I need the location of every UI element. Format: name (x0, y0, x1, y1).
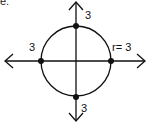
label-top: 3 (85, 9, 91, 21)
label-bottom: 3 (81, 102, 87, 114)
diagram-canvas: 3 3 3 r= 3 (0, 0, 146, 123)
label-radius: r= 3 (112, 41, 131, 53)
point-bottom (73, 94, 79, 100)
label-left: 3 (29, 41, 35, 53)
point-left (38, 58, 44, 64)
point-top (73, 23, 79, 29)
point-right (108, 58, 114, 64)
